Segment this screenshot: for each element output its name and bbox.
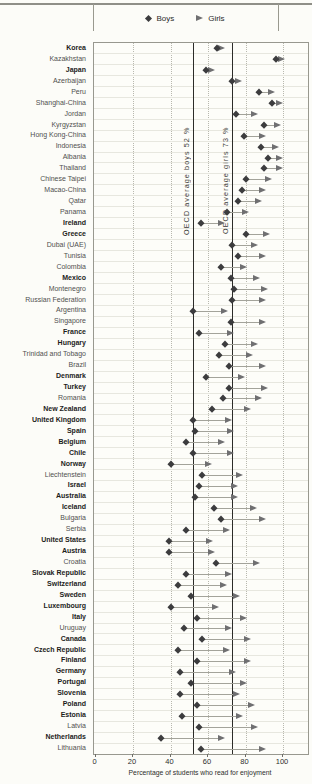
- girls-marker: [225, 417, 232, 423]
- country-label: Jordan: [0, 108, 89, 119]
- country-label: Israel: [0, 480, 89, 491]
- country-label: Indonesia: [0, 140, 89, 151]
- boys-girls-connector: [200, 486, 232, 487]
- boys-marker: [261, 165, 268, 172]
- girls-marker: [244, 636, 251, 642]
- country-label: United Kingdom: [0, 414, 89, 425]
- boys-girls-connector: [187, 530, 224, 531]
- country-label: United States: [0, 534, 89, 545]
- boys-marker: [229, 242, 236, 249]
- chart-row: [94, 65, 308, 76]
- chart-row: [94, 613, 308, 624]
- boys-girls-connector: [233, 245, 252, 246]
- girls-marker: [259, 319, 266, 325]
- country-label: Spain: [0, 425, 89, 436]
- girls-marker: [223, 527, 230, 533]
- girls-marker: [259, 516, 266, 522]
- girls-marker: [238, 374, 245, 380]
- boys-girls-connector: [196, 497, 231, 498]
- boys-girls-connector: [213, 409, 245, 410]
- boys-girls-connector: [187, 442, 219, 443]
- boys-marker: [225, 384, 232, 391]
- legend-item-boys: Boys: [146, 14, 174, 23]
- x-axis-label-40: 40: [159, 757, 181, 766]
- country-label: Shanghai-China: [0, 97, 89, 108]
- country-label: Lithuania: [0, 742, 89, 753]
- girls-marker: [212, 604, 219, 610]
- country-label: Netherlands: [0, 731, 89, 742]
- girls-marker: [276, 165, 283, 171]
- boys-girls-connector: [220, 355, 246, 356]
- boys-girls-connector: [222, 519, 259, 520]
- boys-girls-connector: [185, 628, 226, 629]
- chart-row: [94, 470, 308, 481]
- country-label: Croatia: [0, 556, 89, 567]
- girls-marker: [218, 220, 225, 226]
- boys-girls-connector: [179, 585, 220, 586]
- boys-marker: [176, 669, 183, 676]
- chart-row: [94, 163, 308, 174]
- boys-marker: [176, 691, 183, 698]
- legend-girls-label: Girls: [208, 14, 224, 23]
- country-label: Bulgaria: [0, 512, 89, 523]
- chart-row: [94, 174, 308, 185]
- chart-legend: Boys Girls: [93, 6, 278, 30]
- chart-row: [94, 536, 308, 547]
- girls-marker: [218, 735, 225, 741]
- x-axis-title: Percentage of students who read for enjo…: [93, 769, 307, 776]
- boys-marker: [212, 559, 219, 566]
- girls-marker: [251, 111, 258, 117]
- country-label: Serbia: [0, 523, 89, 534]
- chart-row: [94, 733, 308, 744]
- boys-marker: [193, 614, 200, 621]
- chart-row: [94, 120, 308, 131]
- boys-marker: [180, 625, 187, 632]
- chart-row: [94, 667, 308, 678]
- boys-marker: [182, 527, 189, 534]
- boys-girls-connector: [239, 201, 256, 202]
- boys-marker: [190, 417, 197, 424]
- country-label: Hong Kong-China: [0, 130, 89, 141]
- chart-row: [94, 591, 308, 602]
- country-label: Austria: [0, 545, 89, 556]
- boys-marker: [242, 176, 249, 183]
- boys-girls-connector: [183, 716, 237, 717]
- chart-row: [94, 109, 308, 120]
- chart-row: [94, 284, 308, 295]
- boys-marker: [242, 231, 249, 238]
- country-label: Switzerland: [0, 578, 89, 589]
- country-label: Australia: [0, 490, 89, 501]
- oecd-average-girls-label: OECD average girls 73 %: [221, 93, 230, 268]
- boys-marker: [225, 362, 232, 369]
- girls-marker: [227, 330, 234, 336]
- boys-diamond-icon: [145, 14, 152, 21]
- girls-marker: [259, 297, 266, 303]
- boys-girls-connector: [239, 256, 259, 257]
- boys-marker: [165, 537, 172, 544]
- boys-marker: [195, 483, 202, 490]
- girls-marker: [268, 89, 275, 95]
- chart-row: [94, 54, 308, 65]
- country-label: Estonia: [0, 709, 89, 720]
- chart-row: [94, 196, 308, 207]
- girls-marker: [231, 483, 238, 489]
- country-label: Slovak Republic: [0, 567, 89, 578]
- country-label: Czech Republic: [0, 644, 89, 655]
- boys-marker: [268, 99, 275, 106]
- girls-marker: [240, 264, 247, 270]
- girls-marker: [261, 286, 268, 292]
- boys-girls-connector: [203, 639, 244, 640]
- girls-marker: [255, 198, 262, 204]
- boys-girls-connector: [198, 661, 245, 662]
- chart-row: [94, 383, 308, 394]
- boys-girls-connector: [162, 738, 218, 739]
- boys-girls-connector: [217, 563, 254, 564]
- boys-marker: [265, 154, 272, 161]
- chart-row: [94, 580, 308, 591]
- boys-marker: [203, 373, 210, 380]
- girls-marker: [206, 538, 213, 544]
- chart-row: [94, 481, 308, 492]
- girls-marker: [261, 385, 268, 391]
- x-axis-label-0: 0: [84, 757, 106, 766]
- legend-boys-label: Boys: [156, 14, 174, 23]
